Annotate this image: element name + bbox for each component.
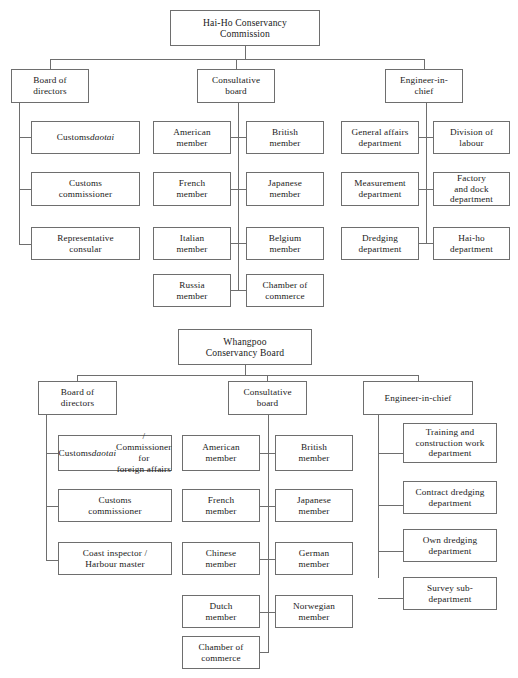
whangpoo-bod-child-3: Coast inspector / Harbour master	[58, 542, 172, 575]
whangpoo-cb-left-4: Dutch member	[182, 595, 260, 628]
connector-whangpoo-root-stem	[245, 365, 246, 375]
diagram-canvas: Hai-Ho Conservancy Commission Board of d…	[0, 0, 518, 678]
haiho-cb-left-4: Russia member	[153, 274, 231, 307]
whangpoo-cb-left-2: French member	[182, 489, 260, 522]
haiho-eic-right-3: Hai-ho department	[433, 227, 510, 260]
connector-whangpoo-cb-stub-4	[260, 612, 276, 613]
haiho-cb-right-1: British member	[246, 121, 324, 154]
haiho-consultative-board-node: Consultative board	[197, 69, 275, 103]
connector-haiho-bod-spine	[19, 103, 20, 244]
connector-haiho-drop-mid	[236, 59, 237, 69]
whangpoo-cb-left-5: Chamber of commerce	[182, 636, 260, 669]
connector-whangpoo-bod-stub-1	[46, 453, 58, 454]
whangpoo-board-of-directors-node: Board of directors	[38, 381, 117, 415]
connector-whangpoo-bod-stub-2	[46, 506, 58, 507]
haiho-eic-right-2: Factory and dock department	[433, 172, 510, 206]
haiho-eic-left-1: General affairs department	[341, 121, 419, 154]
whangpoo-consultative-board-node: Consultative board	[228, 381, 307, 415]
connector-whangpoo-eic-spine	[378, 415, 379, 578]
haiho-cb-left-3: Italian member	[153, 227, 231, 260]
connector-haiho-cb-stub-3	[231, 243, 246, 244]
connector-haiho-bus	[50, 59, 424, 60]
haiho-cb-right-4: Chamber of commerce	[246, 274, 324, 307]
connector-haiho-eic-stub-3	[419, 243, 433, 244]
whangpoo-eic-child-1: Training and construction work departmen…	[403, 423, 497, 463]
haiho-bod-child-2: Customs commissioner	[31, 172, 140, 206]
connector-haiho-root-stem	[245, 46, 246, 59]
connector-whangpoo-cb-spine	[268, 415, 269, 652]
connector-haiho-cb-stub-1	[231, 137, 246, 138]
connector-whangpoo-eic-stub-3	[378, 551, 403, 552]
haiho-eic-left-2: Measurement department	[341, 172, 419, 206]
whangpoo-cb-right-3: German member	[275, 542, 353, 575]
connector-whangpoo-cb-stub-2	[260, 506, 276, 507]
whangpoo-eic-child-2: Contract dredging department	[403, 481, 497, 514]
whangpoo-cb-right-2: Japanese member	[275, 489, 353, 522]
whangpoo-bod-child-1-italic: daotai	[92, 448, 116, 459]
haiho-cb-left-1: American member	[153, 121, 231, 154]
haiho-cb-right-3: Belgium member	[246, 227, 324, 260]
connector-haiho-bod-stub-3	[19, 244, 31, 245]
haiho-cb-right-2: Japanese member	[246, 172, 324, 206]
connector-haiho-bod-stub-1	[19, 137, 31, 138]
connector-haiho-eic-stub-1	[419, 137, 433, 138]
whangpoo-eic-child-3: Own dredging department	[403, 529, 497, 562]
haiho-cb-left-2: French member	[153, 172, 231, 206]
connector-haiho-cb-stub-2	[231, 189, 246, 190]
connector-haiho-drop-left	[50, 59, 51, 69]
connector-whangpoo-eic-stub-1	[378, 453, 403, 454]
whangpoo-cb-left-1: American member	[182, 435, 260, 471]
connector-whangpoo-bod-spine	[46, 415, 47, 560]
haiho-board-of-directors-node: Board of directors	[11, 69, 89, 103]
connector-whangpoo-eic-stub-2	[378, 505, 403, 506]
haiho-bod-child-1: Customs daotai	[31, 121, 140, 154]
connector-whangpoo-eic-stub-4	[378, 598, 403, 599]
connector-haiho-bod-stub-2	[19, 189, 31, 190]
whangpoo-bod-child-2: Customs commissioner	[58, 489, 172, 522]
whangpoo-root-node: Whangpoo Conservancy Board	[178, 329, 312, 365]
haiho-engineer-in-chief-node: Engineer-in- chief	[385, 69, 463, 103]
connector-haiho-drop-right	[424, 59, 425, 69]
haiho-eic-right-1: Division of labour	[433, 121, 510, 154]
whangpoo-cb-left-3: Chinese member	[182, 542, 260, 575]
haiho-bod-child-3: Representative consular	[31, 227, 140, 260]
connector-haiho-cb-stub-4	[231, 290, 246, 291]
whangpoo-engineer-in-chief-node: Engineer-in-chief	[363, 381, 473, 415]
connector-whangpoo-cb-stub-5	[260, 652, 269, 653]
connector-whangpoo-bod-stub-3	[46, 560, 58, 561]
whangpoo-eic-child-4: Survey sub- department	[403, 577, 497, 610]
haiho-bod-child-1-italic: daotai	[90, 132, 114, 143]
connector-haiho-eic-stub-2	[419, 189, 433, 190]
haiho-root-node: Hai-Ho Conservancy Commission	[170, 10, 320, 46]
connector-whangpoo-cb-stub-3	[260, 559, 276, 560]
connector-haiho-eic-spine	[426, 103, 427, 244]
whangpoo-cb-right-4: Norwegian member	[275, 595, 353, 628]
connector-haiho-cb-spine	[238, 103, 239, 290]
whangpoo-bod-child-1: Customs daotai / Commissioner for foreig…	[58, 435, 172, 471]
connector-whangpoo-cb-stub-1	[260, 453, 276, 454]
connector-whangpoo-bus	[77, 375, 418, 376]
haiho-eic-left-3: Dredging department	[341, 227, 419, 260]
whangpoo-cb-right-1: British member	[275, 435, 353, 471]
